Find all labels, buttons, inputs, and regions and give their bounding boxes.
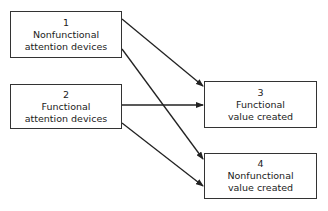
arrow-1-to-3 <box>122 19 203 86</box>
node-number: 3 <box>257 87 263 99</box>
arrow-1-to-4 <box>122 49 203 159</box>
node-label-line2: attention devices <box>25 113 108 125</box>
node-label-line1: Functional <box>236 99 285 111</box>
node-label-line2: value created <box>228 111 293 123</box>
node-label-line2: attention devices <box>25 41 108 53</box>
node-functional-value-created: 3 Functional value created <box>204 81 317 128</box>
node-label-line2: value created <box>228 182 293 194</box>
node-nonfunctional-attention-devices: 1 Nonfunctional attention devices <box>10 11 122 58</box>
arrow-2-to-4 <box>122 123 203 186</box>
node-number: 4 <box>257 158 263 170</box>
node-number: 1 <box>63 17 69 29</box>
node-nonfunctional-value-created: 4 Nonfunctional value created <box>204 153 317 199</box>
node-functional-attention-devices: 2 Functional attention devices <box>10 84 122 129</box>
node-label-line1: Nonfunctional <box>227 170 293 182</box>
node-number: 2 <box>63 89 69 101</box>
node-label-line1: Functional <box>42 101 91 113</box>
node-label-line1: Nonfunctional <box>33 29 99 41</box>
